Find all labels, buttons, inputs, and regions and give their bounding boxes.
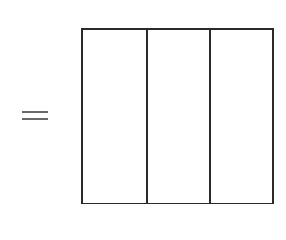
equals-bottom-bar (22, 118, 48, 120)
part-1 (83, 30, 146, 203)
part-3 (209, 30, 272, 203)
partitioned-square (81, 28, 274, 204)
equals-top-bar (22, 111, 48, 113)
part-2 (146, 30, 209, 203)
